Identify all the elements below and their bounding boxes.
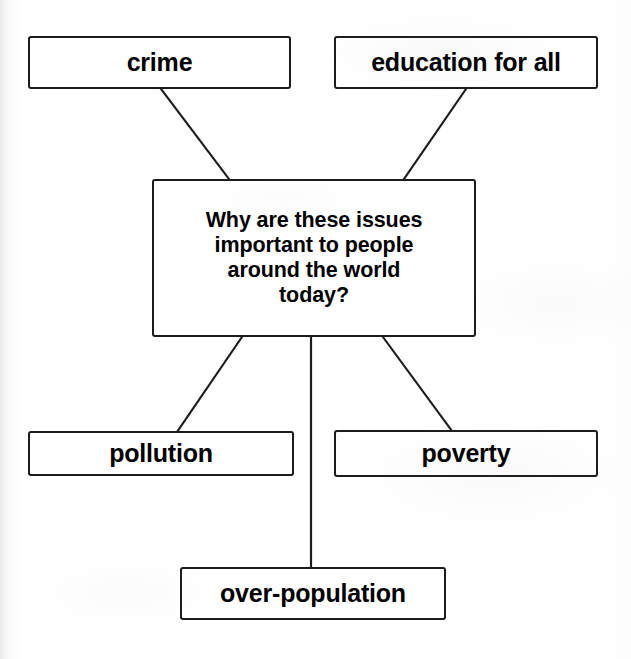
edge-central-to-poverty (383, 337, 452, 431)
edge-education-to-central (404, 89, 466, 179)
node-pollution-label: pollution (109, 439, 213, 468)
node-education-for-all[interactable]: education for all (334, 36, 598, 89)
node-pollution[interactable]: pollution (28, 431, 294, 476)
node-education-for-all-label: education for all (371, 48, 561, 77)
node-central-question-label: Why are these issues important to people… (206, 208, 423, 308)
node-crime-label: crime (127, 48, 193, 77)
central-line-2: important to people (215, 233, 414, 257)
node-crime[interactable]: crime (28, 36, 291, 89)
central-line-4: today? (279, 283, 349, 307)
node-over-population-label: over-population (220, 579, 406, 608)
diagram-canvas: crime education for all Why are these is… (0, 0, 631, 659)
node-poverty[interactable]: poverty (334, 430, 598, 477)
central-line-3: around the world (228, 258, 401, 282)
edge-crime-to-central (161, 89, 229, 179)
node-over-population[interactable]: over-population (180, 567, 446, 620)
edge-central-to-pollution (177, 337, 242, 432)
central-line-1: Why are these issues (206, 208, 423, 232)
node-central-question[interactable]: Why are these issues important to people… (152, 179, 476, 337)
node-poverty-label: poverty (422, 439, 511, 468)
